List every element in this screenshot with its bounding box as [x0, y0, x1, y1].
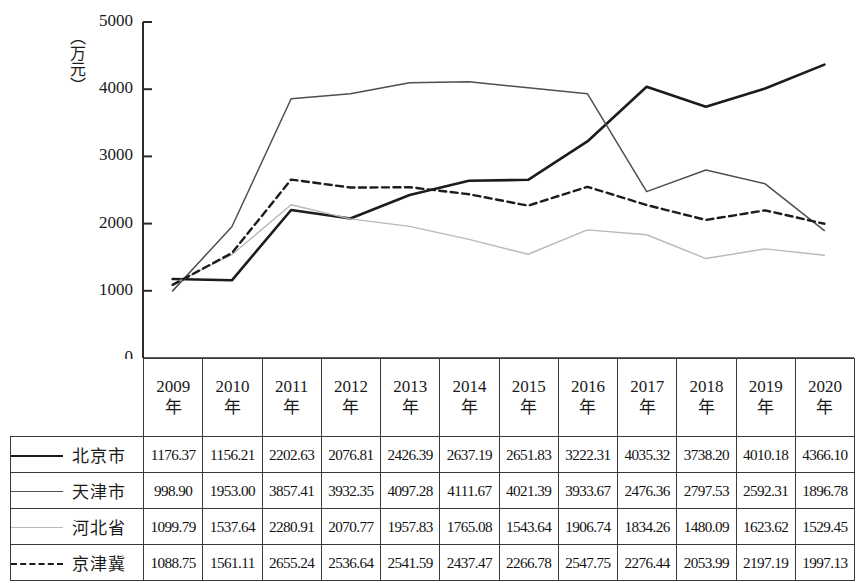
table-cell: 3932.35: [321, 473, 380, 509]
table-cell: 1896.78: [795, 473, 854, 509]
table-row: 河北省1099.791537.642280.912070.771957.8317…: [11, 509, 855, 545]
year-unit-char: 年: [440, 398, 498, 418]
table-cell: 3857.41: [262, 473, 321, 509]
table-cell: 998.90: [144, 473, 203, 509]
data-table: 2009年2010年2011年2012年2013年2014年2015年2016年…: [10, 358, 855, 581]
table-cell: 4010.18: [736, 437, 795, 473]
legend-label: 京津冀: [72, 550, 126, 575]
legend-line-swatch-icon: [11, 486, 63, 496]
table-body: 北京市1176.371156.212202.632076.812426.3926…: [11, 437, 855, 581]
table-cell: 2266.78: [499, 545, 558, 581]
year-number: 2014: [440, 377, 498, 397]
table-cell: 4366.10: [795, 437, 854, 473]
year-number: 2010: [203, 377, 261, 397]
table-cell: 1906.74: [558, 509, 617, 545]
table-cell: 1176.37: [144, 437, 203, 473]
year-number: 2016: [559, 377, 617, 397]
table-cell: 1957.83: [381, 509, 440, 545]
legend-line-swatch-icon: [11, 450, 63, 460]
table-cell: 3933.67: [558, 473, 617, 509]
year-number: 2013: [381, 377, 439, 397]
table-cell: 2280.91: [262, 509, 321, 545]
table-cell: 2536.64: [321, 545, 380, 581]
table-cell: 2276.44: [618, 545, 677, 581]
table-cell: 2437.47: [440, 545, 499, 581]
table-cell: 2070.77: [321, 509, 380, 545]
table-cell: 2197.19: [736, 545, 795, 581]
table-cell: 4035.32: [618, 437, 677, 473]
table-cell: 2547.75: [558, 545, 617, 581]
year-unit-char: 年: [203, 398, 261, 418]
table-row: 天津市998.901953.003857.413932.354097.28411…: [11, 473, 855, 509]
table-corner-cell: [11, 359, 144, 437]
legend-label: 天津市: [72, 478, 126, 503]
legend-line-swatch-icon: [11, 558, 63, 568]
series-line-天津市: [173, 82, 825, 291]
year-unit-char: 年: [322, 398, 380, 418]
series-line-京津冀: [173, 180, 825, 285]
legend-label: 河北省: [72, 514, 126, 539]
table-cell: 3738.20: [677, 437, 736, 473]
line-chart: （万元） 500040003000200010000: [0, 0, 860, 362]
table-cell: 1480.09: [677, 509, 736, 545]
table-cell: 2637.19: [440, 437, 499, 473]
table-row: 京津冀1088.751561.112655.242536.642541.5924…: [11, 545, 855, 581]
table-cell: 1537.64: [203, 509, 262, 545]
table-cell: 1088.75: [144, 545, 203, 581]
table-cell: 1529.45: [795, 509, 854, 545]
table-cell: 1953.00: [203, 473, 262, 509]
table-cell: 2541.59: [381, 545, 440, 581]
table-cell: 2797.53: [677, 473, 736, 509]
table-cell: 1765.08: [440, 509, 499, 545]
year-number: 2018: [677, 377, 735, 397]
table-cell: 2076.81: [321, 437, 380, 473]
table-cell: 1997.13: [795, 545, 854, 581]
year-header-2009: 2009年: [144, 359, 203, 437]
year-unit-char: 年: [796, 398, 854, 418]
table-cell: 2651.83: [499, 437, 558, 473]
table-cell: 3222.31: [558, 437, 617, 473]
table-cell: 2655.24: [262, 545, 321, 581]
table-cell: 1561.11: [203, 545, 262, 581]
legend-cell-天津市: 天津市: [11, 473, 144, 509]
table-cell: 2426.39: [381, 437, 440, 473]
table-row: 北京市1176.371156.212202.632076.812426.3926…: [11, 437, 855, 473]
year-unit-char: 年: [559, 398, 617, 418]
year-number: 2019: [737, 377, 795, 397]
year-header-2015: 2015年: [499, 359, 558, 437]
year-number: 2011: [263, 377, 321, 397]
table-cell: 2053.99: [677, 545, 736, 581]
year-number: 2015: [500, 377, 558, 397]
year-header-2020: 2020年: [795, 359, 854, 437]
year-header-2019: 2019年: [736, 359, 795, 437]
year-unit-char: 年: [381, 398, 439, 418]
chart-page: （万元） 500040003000200010000 2009年2010年201…: [0, 0, 860, 583]
plot-svg: [0, 0, 860, 362]
year-header-2017: 2017年: [618, 359, 677, 437]
legend-cell-京津冀: 京津冀: [11, 545, 144, 581]
year-unit-char: 年: [144, 398, 202, 418]
legend-cell-北京市: 北京市: [11, 437, 144, 473]
year-header-2018: 2018年: [677, 359, 736, 437]
year-header-2013: 2013年: [381, 359, 440, 437]
table-cell: 4021.39: [499, 473, 558, 509]
year-number: 2017: [618, 377, 676, 397]
year-number: 2012: [322, 377, 380, 397]
year-unit-char: 年: [618, 398, 676, 418]
year-number: 2009: [144, 377, 202, 397]
year-header-2012: 2012年: [321, 359, 380, 437]
table-cell: 4111.67: [440, 473, 499, 509]
table-cell: 4097.28: [381, 473, 440, 509]
series-line-北京市: [173, 65, 825, 281]
table-cell: 2592.31: [736, 473, 795, 509]
series-lines: [173, 65, 825, 291]
year-header-2014: 2014年: [440, 359, 499, 437]
year-unit-char: 年: [500, 398, 558, 418]
year-unit-char: 年: [737, 398, 795, 418]
table-header-row: 2009年2010年2011年2012年2013年2014年2015年2016年…: [11, 359, 855, 437]
series-line-河北省: [173, 205, 825, 284]
table-cell: 2202.63: [262, 437, 321, 473]
year-header-2016: 2016年: [558, 359, 617, 437]
table-cell: 1834.26: [618, 509, 677, 545]
table-cell: 1099.79: [144, 509, 203, 545]
